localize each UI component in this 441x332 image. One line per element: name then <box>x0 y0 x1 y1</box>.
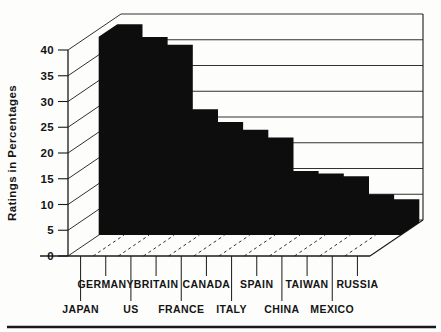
category-label-britain: BRITAIN <box>134 278 179 290</box>
category-label-us: US <box>123 303 138 315</box>
category-label-canada: CANADA <box>182 278 230 290</box>
ytick-label-5: 5 <box>47 224 54 236</box>
category-label-germany: GERMANY <box>78 278 134 290</box>
floor-separator-dashed-8 <box>269 235 300 256</box>
floor-separator-dashed-3 <box>144 235 175 256</box>
ytick-label-25: 25 <box>41 121 55 133</box>
ratings-by-country-3d-bar-chart: 0510152025303540JAPANGERMANYUSBRITAINFRA… <box>0 0 441 332</box>
floor-separator-dashed-11 <box>345 235 376 256</box>
ytick-label-35: 35 <box>41 70 55 82</box>
floor-separator-dashed-1 <box>93 235 124 256</box>
category-label-france: FRANCE <box>158 303 204 315</box>
category-label-italy: ITALY <box>216 303 247 315</box>
category-label-taiwan: TAIWAN <box>286 278 329 290</box>
ytick-label-10: 10 <box>41 199 54 211</box>
floor-separator-dashed-7 <box>244 235 275 256</box>
y-axis-title: Ratings in Percentages <box>6 85 18 221</box>
ytick-label-20: 20 <box>41 147 54 159</box>
floor-separator-dashed-4 <box>169 235 200 256</box>
floor-separator-dashed-9 <box>295 235 326 256</box>
category-label-mexico: MEXICO <box>310 303 354 315</box>
category-label-spain: SPAIN <box>240 278 273 290</box>
floor-separator-dashed-10 <box>320 235 351 256</box>
ytick-label-15: 15 <box>41 173 55 185</box>
chart-bars <box>99 24 420 235</box>
floor-separator-dashed-6 <box>219 235 250 256</box>
floor-separator-dashed-5 <box>194 235 225 256</box>
category-label-china: CHINA <box>264 303 299 315</box>
ytick-label-40: 40 <box>41 44 54 56</box>
floor-separator-dashed-2 <box>118 235 149 256</box>
category-label-russia: RUSSIA <box>336 278 378 290</box>
category-label-japan: JAPAN <box>62 303 99 315</box>
ytick-label-30: 30 <box>41 96 54 108</box>
ytick-label-0: 0 <box>47 250 54 262</box>
figure-page: 0510152025303540JAPANGERMANYUSBRITAINFRA… <box>0 0 441 332</box>
